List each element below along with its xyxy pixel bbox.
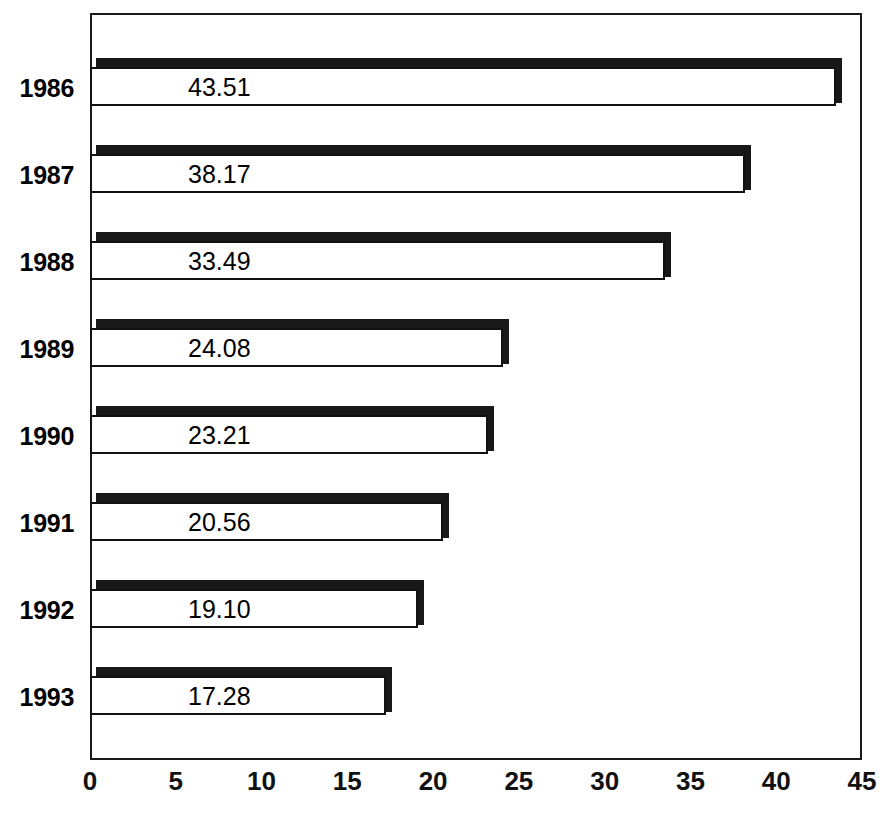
bar-face: 24.08	[90, 328, 503, 367]
y-axis-label-1987: 1987	[20, 163, 74, 188]
bar-1988: 33.49	[90, 232, 675, 281]
bar-value-label: 23.21	[188, 422, 251, 447]
bar-face: 43.51	[90, 67, 836, 106]
bar-value-label: 20.56	[188, 509, 251, 534]
x-tick-label-45: 45	[848, 768, 877, 794]
bar-chart: 19861987198819891990199119921993 43.5138…	[0, 0, 892, 822]
bar-value-label: 17.28	[188, 683, 251, 708]
y-axis-label-1986: 1986	[20, 76, 74, 101]
x-tick-label-20: 20	[419, 768, 448, 794]
x-tick-label-40: 40	[762, 768, 791, 794]
y-axis-category-labels: 19861987198819891990199119921993	[0, 13, 82, 760]
chart-title	[0, 0, 892, 2]
y-axis-label-1991: 1991	[20, 511, 74, 536]
bar-1987: 38.17	[90, 145, 755, 194]
bar-1989: 24.08	[90, 319, 513, 368]
bar-value-label: 43.51	[188, 74, 251, 99]
x-tick-label-35: 35	[676, 768, 705, 794]
bar-value-label: 19.10	[188, 596, 251, 621]
bar-face: 19.10	[90, 589, 418, 628]
x-axis: 051015202530354045	[90, 762, 862, 812]
y-axis-label-1988: 1988	[20, 250, 74, 275]
bar-value-label: 33.49	[188, 248, 251, 273]
bar-face: 23.21	[90, 415, 488, 454]
bars-layer: 43.5138.1733.4924.0823.2120.5619.1017.28	[90, 13, 862, 760]
bar-1992: 19.10	[90, 580, 428, 629]
bar-1991: 20.56	[90, 493, 453, 542]
bar-value-label: 38.17	[188, 161, 251, 186]
bar-1993: 17.28	[90, 667, 396, 716]
bar-1990: 23.21	[90, 406, 498, 455]
bar-value-label: 24.08	[188, 335, 251, 360]
x-tick-label-25: 25	[504, 768, 533, 794]
bar-face: 38.17	[90, 154, 745, 193]
bar-face: 33.49	[90, 241, 665, 280]
y-axis-label-1992: 1992	[20, 598, 74, 623]
y-axis-label-1993: 1993	[20, 685, 74, 710]
x-tick-label-10: 10	[247, 768, 276, 794]
x-tick-label-0: 0	[83, 768, 97, 794]
bar-face: 20.56	[90, 502, 443, 541]
y-axis-label-1989: 1989	[20, 337, 74, 362]
bar-face: 17.28	[90, 676, 386, 715]
x-tick-label-30: 30	[590, 768, 619, 794]
y-axis-label-1990: 1990	[20, 424, 74, 449]
x-tick-label-15: 15	[333, 768, 362, 794]
x-tick-label-5: 5	[169, 768, 183, 794]
bar-1986: 43.51	[90, 58, 846, 107]
